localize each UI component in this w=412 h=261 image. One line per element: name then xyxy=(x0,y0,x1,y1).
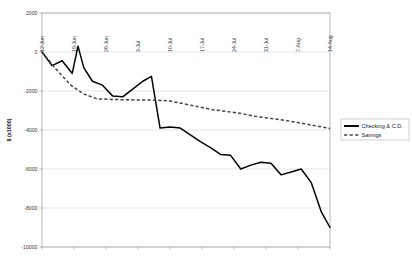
series-group xyxy=(42,46,330,227)
y-tick-label: -10000 xyxy=(21,244,37,250)
y-tick-label: 2000 xyxy=(26,10,38,16)
y-tick-label: -6000 xyxy=(24,166,37,172)
chart-legend: Checking & C.D.Savings xyxy=(341,119,409,140)
x-tick-label: 14-Aug xyxy=(327,35,333,52)
x-tick-label: 3-Jul xyxy=(135,41,141,52)
legend-label: Checking & C.D. xyxy=(362,123,404,129)
y-tick-label: -2000 xyxy=(24,88,37,94)
x-tick-label: 7-Aug xyxy=(295,38,301,52)
line-chart: 20000-2000-4000-6000-8000-10000 12-Jun19… xyxy=(0,0,412,261)
y-tick-label: -8000 xyxy=(24,205,37,211)
legend-label: Savings xyxy=(362,132,382,138)
x-tick-label: 10-Jul xyxy=(167,38,173,52)
x-tick-label: 31-Jul xyxy=(263,38,269,52)
x-axis-ticks-group: 12-Jun19-Jun26-Jun3-Jul10-Jul17-Jul24-Ju… xyxy=(39,35,333,249)
y-axis-title-group: $ (x1000) xyxy=(6,118,12,141)
y-tick-label: 0 xyxy=(35,49,38,55)
series-line-checking-c-d xyxy=(42,46,330,227)
y-tick-label: -4000 xyxy=(24,127,37,133)
series-line-savings xyxy=(42,52,330,128)
y-axis-title: $ (x1000) xyxy=(6,118,12,141)
chart-container: 20000-2000-4000-6000-8000-10000 12-Jun19… xyxy=(0,0,412,261)
gridlines-group xyxy=(42,13,330,247)
x-tick-label: 12-Jun xyxy=(39,36,45,52)
x-tick-label: 19-Jun xyxy=(71,36,77,52)
x-tick-label: 24-Jul xyxy=(231,38,237,52)
x-tick-label: 17-Jul xyxy=(199,38,205,52)
x-tick-label: 26-Jun xyxy=(103,36,109,52)
